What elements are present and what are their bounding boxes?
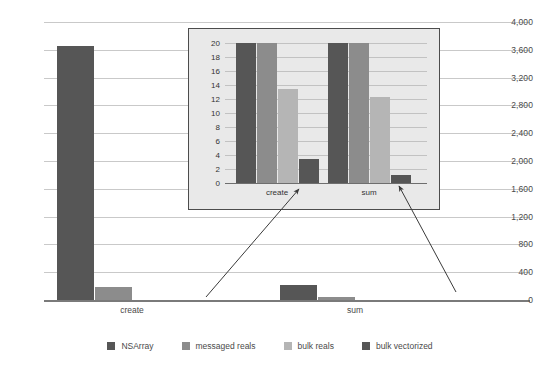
chart-legend: NSArraymessaged realsbulk realsbulk vect… [0, 336, 540, 356]
gridline [44, 272, 530, 273]
inset-bar-chart: 02468101214161820createsum [188, 28, 440, 210]
inset-bar [349, 43, 369, 183]
bar [57, 46, 94, 300]
gridline [44, 244, 530, 245]
x-axis-category-label: create [120, 305, 144, 315]
legend-swatch [107, 342, 115, 350]
y-axis-tick-label: 1,200 [496, 212, 540, 222]
inset-bar [328, 43, 348, 183]
y-axis-tick-label: 2,800 [496, 100, 540, 110]
legend-swatch [182, 342, 190, 350]
inset-y-axis-tick-label: 18 [189, 53, 220, 62]
legend-label: messaged reals [196, 341, 256, 351]
y-axis-tick-label: 400 [496, 267, 540, 277]
inset-bar [278, 89, 298, 184]
inset-y-axis-tick-label: 8 [189, 123, 220, 132]
inset-y-axis-tick-label: 20 [189, 39, 220, 48]
inset-y-axis-tick-label: 4 [189, 151, 220, 160]
y-axis-tick-label: 3,600 [496, 45, 540, 55]
legend-swatch [362, 342, 370, 350]
legend-label: NSArray [121, 341, 153, 351]
inset-bar [299, 159, 319, 184]
inset-y-axis-tick-label: 14 [189, 81, 220, 90]
inset-y-axis-tick-label: 0 [189, 179, 220, 188]
legend-item: messaged reals [182, 341, 256, 351]
bar [95, 287, 132, 300]
y-axis-tick-label: 2,400 [496, 128, 540, 138]
y-axis-tick-label: 4,000 [496, 17, 540, 27]
legend-item: bulk vectorized [362, 341, 433, 351]
bar [318, 297, 355, 300]
gridline [44, 22, 530, 23]
y-axis-tick-label: 800 [496, 239, 540, 249]
inset-y-axis-tick-label: 16 [189, 67, 220, 76]
inset-x-axis-category-label: sum [361, 188, 376, 197]
inset-y-axis-tick-label: 12 [189, 95, 220, 104]
x-axis-category-label: sum [347, 305, 363, 315]
inset-x-axis-category-label: create [266, 188, 288, 197]
legend-label: bulk reals [298, 341, 334, 351]
gridline [44, 300, 530, 302]
inset-y-axis-tick-label: 10 [189, 109, 220, 118]
inset-bar [370, 97, 390, 183]
legend-item: bulk reals [284, 341, 334, 351]
legend-item: NSArray [107, 341, 153, 351]
bar [280, 285, 317, 300]
y-axis-tick-label: 2,000 [496, 156, 540, 166]
inset-y-axis-tick-label: 6 [189, 137, 220, 146]
legend-swatch [284, 342, 292, 350]
inset-gridline [225, 183, 427, 184]
inset-bar [236, 43, 256, 183]
y-axis-tick-label: 3,200 [496, 73, 540, 83]
chart-canvas: 04008001,2001,6002,0002,4002,8003,2003,6… [0, 0, 540, 368]
y-axis-tick-label: 0 [496, 295, 540, 305]
inset-bar [391, 175, 411, 183]
gridline [44, 217, 530, 218]
inset-bar [257, 43, 277, 183]
legend-label: bulk vectorized [376, 341, 433, 351]
inset-y-axis-tick-label: 2 [189, 165, 220, 174]
y-axis-tick-label: 1,600 [496, 184, 540, 194]
